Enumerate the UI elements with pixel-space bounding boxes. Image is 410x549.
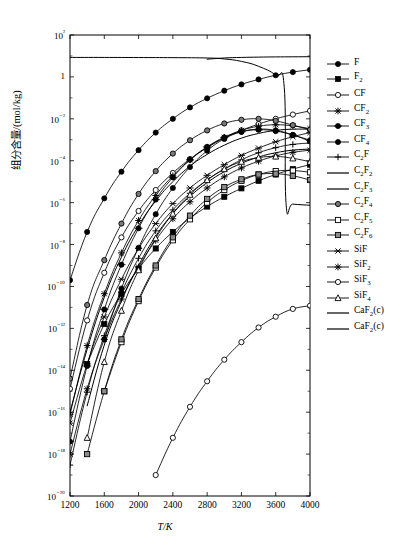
legend-label: C2F4: [351, 196, 372, 208]
legend-marker-open-circle-icon: [325, 274, 351, 286]
legend-marker-star-icon: [325, 103, 351, 115]
y-tick-label: 10⁻⁸: [31, 239, 65, 251]
legend-item[interactable]: C2F5: [325, 210, 410, 226]
legend-label: SiF4: [351, 290, 371, 302]
legend-marker-filled-circle-icon: [325, 56, 351, 68]
legend-label: SiF3: [351, 274, 371, 286]
legend-marker-gray-circle-icon: [325, 196, 351, 208]
y-axis-label: 组分含量/(mol/kg): [8, 20, 23, 170]
legend-item[interactable]: CF: [325, 85, 410, 101]
legend-label: CaF2(c): [351, 321, 384, 333]
y-tick-label: 10⁻¹⁶: [31, 406, 65, 418]
legend-label: C2F5: [351, 212, 372, 224]
legend-label: CF: [351, 88, 366, 98]
legend-label: CF4: [351, 134, 369, 146]
legend-marker-plus-icon: [325, 149, 351, 161]
legend-label: CF3: [351, 118, 369, 130]
legend-item[interactable]: SiF3: [325, 272, 410, 288]
y-tick-label: 10⁻²: [31, 113, 65, 125]
legend-item[interactable]: CaF2(c): [325, 319, 410, 335]
legend-marker-none-icon: [325, 321, 351, 333]
legend-item[interactable]: C2F4: [325, 194, 410, 210]
legend-label: F: [351, 57, 359, 67]
legend-label: SiF2: [351, 259, 371, 271]
legend-marker-filled-circle-icon: [325, 134, 351, 146]
legend-label: CF2: [351, 103, 369, 115]
legend-item[interactable]: C2F: [325, 148, 410, 164]
y-tick-label: 10⁻⁴: [31, 155, 65, 167]
legend-label: C2F: [351, 149, 369, 161]
legend-marker-filled-square-icon: [325, 71, 351, 83]
y-tick-label: 10⁻²⁰: [31, 490, 65, 502]
tick-layer: [70, 35, 310, 496]
marker-layer: [66, 67, 314, 478]
legend-item[interactable]: SiF: [325, 241, 410, 257]
y-tick-label: 10⁻¹⁸: [31, 448, 65, 460]
y-tick-label: 1: [31, 71, 65, 81]
legend-marker-gray-square-icon: [325, 227, 351, 239]
legend-item[interactable]: C2F6: [325, 226, 410, 242]
legend-item[interactable]: SiF4: [325, 288, 410, 304]
legend-item[interactable]: CF3: [325, 116, 410, 132]
legend-item[interactable]: CF4: [325, 132, 410, 148]
legend-marker-open-triangle-icon: [325, 290, 351, 302]
y-tick-label: 10⁻¹⁰: [31, 280, 65, 292]
legend-marker-x-cross-icon: [325, 243, 351, 255]
legend-item[interactable]: C2F2: [325, 163, 410, 179]
chart-legend: FF2CFCF2CF3CF4C2FC2F2C2F3C2F4C2F5C2F6SiF…: [325, 54, 410, 335]
y-tick-label: 10⁻¹⁴: [31, 364, 65, 376]
legend-marker-filled-hex-icon: [325, 118, 351, 130]
legend-item[interactable]: C2F3: [325, 179, 410, 195]
legend-marker-none-icon: [325, 165, 351, 177]
legend-marker-none-icon: [325, 181, 351, 193]
legend-item[interactable]: F: [325, 54, 410, 70]
y-tick-label: 10⁻¹²: [31, 322, 65, 334]
legend-label: C2F3: [351, 181, 372, 193]
x-axis-label: T/K: [0, 521, 330, 532]
legend-label: SiF: [351, 244, 367, 254]
legend-label: C2F2: [351, 165, 372, 177]
legend-item[interactable]: CF2: [325, 101, 410, 117]
legend-label: CaF2(c): [351, 305, 384, 317]
legend-label: C2F6: [351, 227, 372, 239]
legend-item[interactable]: F2: [325, 70, 410, 86]
legend-marker-none-icon: [325, 305, 351, 317]
y-tick-label: 10⁻⁶: [31, 197, 65, 209]
legend-item[interactable]: CaF2(c): [325, 304, 410, 320]
legend-marker-open-circle-icon: [325, 87, 351, 99]
plot-frame: [70, 35, 310, 496]
legend-marker-open-square-icon: [325, 212, 351, 224]
y-tick-label: 10²: [31, 29, 65, 41]
x-tick-label: 4000: [290, 500, 330, 510]
legend-item[interactable]: SiF2: [325, 257, 410, 273]
legend-label: F2: [351, 71, 363, 83]
legend-marker-star-icon: [325, 259, 351, 271]
